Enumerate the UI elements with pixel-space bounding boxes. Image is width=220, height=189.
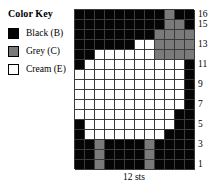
grid-cell [115, 50, 125, 60]
grid-cell [175, 30, 185, 40]
grid-cell [175, 130, 185, 140]
grid-cell [95, 40, 105, 50]
grid-cell [155, 90, 165, 100]
grid-cell [95, 90, 105, 100]
color-key-legend: Color Key Black (B) Grey (C) Cream (E) [8, 8, 70, 78]
grid-cell [135, 110, 145, 120]
grid-cell [105, 10, 115, 20]
grid-cell [175, 100, 185, 110]
grid-cell [75, 120, 85, 130]
grid-cell [185, 120, 195, 130]
grid-cell [85, 140, 95, 150]
legend-item-label: Cream (E) [26, 64, 66, 75]
grid-cell [105, 30, 115, 40]
grid-cell [185, 50, 195, 60]
grid-cell [105, 160, 115, 170]
grid-cell [125, 40, 135, 50]
grid-cell [185, 70, 195, 80]
grid-cell [165, 100, 175, 110]
grid-cell [185, 40, 195, 50]
grid-cell [85, 110, 95, 120]
grid-cell [185, 30, 195, 40]
grid-cell [165, 70, 175, 80]
grid-cell [155, 40, 165, 50]
grid-cell [75, 30, 85, 40]
grid-cell [185, 110, 195, 120]
grid-cell [125, 70, 135, 80]
grid-cell [115, 60, 125, 70]
grid-cell [145, 120, 155, 130]
grid-cell [155, 60, 165, 70]
grid-cell [165, 110, 175, 120]
grid-cell [95, 140, 105, 150]
grid-cell [185, 80, 195, 90]
grid-cell [175, 90, 185, 100]
grid-cell [165, 50, 175, 60]
grid-cell [95, 150, 105, 160]
grid-cell [135, 150, 145, 160]
grid-cell [125, 130, 135, 140]
grid-cell [175, 20, 185, 30]
grid-cell [75, 150, 85, 160]
grid-cell [175, 50, 185, 60]
grid-cell [165, 60, 175, 70]
grid-cell [185, 20, 195, 30]
grid-cell [135, 10, 145, 20]
grid-cell [145, 100, 155, 110]
grid-cell [75, 90, 85, 100]
grid-cell [85, 20, 95, 30]
grid-cell [85, 10, 95, 20]
grid-cell [105, 20, 115, 30]
row-number-label: 15 [198, 19, 208, 29]
grid-cell [135, 30, 145, 40]
grid-cell [125, 160, 135, 170]
grid-cell [115, 100, 125, 110]
grid-cell [175, 40, 185, 50]
grid-cell [105, 40, 115, 50]
grid-cell [155, 50, 165, 60]
grid-cell [125, 80, 135, 90]
pattern-grid-wrapper [74, 9, 194, 169]
grid-cell [175, 150, 185, 160]
grid-cell [105, 100, 115, 110]
grid-cell [115, 30, 125, 40]
grid-cell [175, 110, 185, 120]
grid-cell [165, 130, 175, 140]
grid-cell [145, 20, 155, 30]
stitch-count-caption: 12 sts [74, 172, 194, 183]
grid-cell [95, 100, 105, 110]
grid-cell [165, 80, 175, 90]
legend-item-cream: Cream (E) [8, 60, 70, 78]
row-number-label: 16 [198, 9, 208, 19]
grid-cell [125, 90, 135, 100]
pattern-grid [74, 9, 194, 169]
grid-cell [85, 130, 95, 140]
grid-cell [75, 40, 85, 50]
grid-cell [95, 80, 105, 90]
grid-cell [145, 150, 155, 160]
grid-cell [145, 140, 155, 150]
grid-cell [145, 130, 155, 140]
grid-cell [155, 80, 165, 90]
grid-cell [85, 150, 95, 160]
grid-cell [165, 90, 175, 100]
grid-cell [105, 120, 115, 130]
grid-cell [85, 70, 95, 80]
grid-cell [145, 90, 155, 100]
grid-cell [95, 60, 105, 70]
grid-cell [75, 50, 85, 60]
grid-cell [185, 60, 195, 70]
grid-cell [185, 150, 195, 160]
grid-cell [165, 160, 175, 170]
grid-cell [75, 20, 85, 30]
grid-cell [155, 150, 165, 160]
legend-item-grey: Grey (C) [8, 42, 70, 60]
grid-cell [175, 10, 185, 20]
grid-cell [145, 80, 155, 90]
grid-cell [85, 60, 95, 70]
grid-cell [115, 110, 125, 120]
row-number-label: 13 [198, 39, 208, 49]
grid-cell [165, 40, 175, 50]
grid-cell [115, 20, 125, 30]
grid-cell [155, 160, 165, 170]
